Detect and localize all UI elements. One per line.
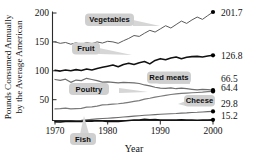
endpoint-dot-cheese: [211, 109, 215, 113]
annotation-label-red-meats: Red meats: [149, 73, 188, 82]
y-tick-label-50: 50: [40, 95, 50, 105]
annotation-label-vegetables: Vegetables: [89, 15, 130, 24]
x-tick-label-1970: 1970: [46, 126, 65, 136]
annotation-vegetables: Vegetables: [85, 14, 160, 27]
endpoint-dot-poultry: [211, 89, 215, 93]
annotation-label-cheese: Cheese: [186, 96, 214, 105]
annotation-cheese: Cheese: [178, 95, 215, 107]
line-chart: 200 150 100 50 1970 1980 1990 2000 Year …: [0, 0, 260, 161]
endpoint-dot-vegetables: [211, 10, 215, 14]
endpoint-dot-fruit: [211, 53, 215, 57]
end-label-fish: 15.2: [221, 111, 238, 121]
x-axis-title: Year: [125, 143, 144, 154]
end-label-fruit: 126.8: [221, 51, 243, 61]
annotation-label-fish: Fish: [75, 135, 91, 144]
chart-axes: [53, 12, 214, 125]
end-value-labels: 201.7 126.8 66.5 64.4 29.8 15.2: [221, 8, 243, 121]
y-axis-title-line2: by the Average American: [14, 20, 24, 113]
annotation-red-meats: Red meats: [147, 72, 191, 85]
y-tick-labels: 200 150 100 50: [35, 8, 50, 105]
annotation-fruit: Fruit: [72, 43, 132, 56]
series-line-vegetables: [55, 12, 213, 44]
annotation-poultry: Poultry: [69, 83, 148, 95]
end-label-cheese: 29.8: [221, 99, 238, 109]
y-tick-label-200: 200: [35, 8, 50, 18]
y-tick-label-150: 150: [35, 37, 50, 47]
y-tick-label-100: 100: [35, 66, 50, 76]
annotation-label-poultry: Poultry: [76, 85, 104, 94]
end-label-poultry: 64.4: [221, 83, 238, 93]
y-axis-title: Pounds Consumed Annually by the Average …: [3, 14, 24, 119]
annotation-label-fruit: Fruit: [77, 44, 95, 53]
x-tick-label-1990: 1990: [151, 126, 170, 136]
series-line-fruit: [55, 55, 213, 71]
x-tick-label-1980: 1980: [98, 126, 117, 136]
end-label-vegetables: 201.7: [221, 8, 243, 18]
y-axis-ticks: [53, 13, 57, 100]
endpoint-dot-fish: [211, 118, 215, 122]
x-tick-label-2000: 2000: [204, 126, 223, 136]
chart-figure: 200 150 100 50 1970 1980 1990 2000 Year …: [0, 0, 260, 161]
y-axis-title-line1: Pounds Consumed Annually: [3, 14, 13, 119]
